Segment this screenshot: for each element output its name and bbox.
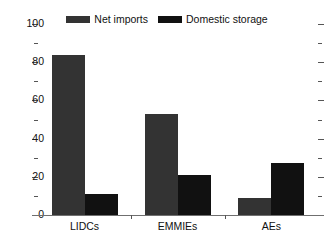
x-category-label: LIDCs [38, 220, 131, 232]
plot-area [38, 24, 318, 215]
legend-swatch-net-imports-icon [66, 16, 90, 23]
y-tick-minor-right [318, 196, 322, 197]
bar-emmies-domestic-storage [178, 175, 211, 215]
bar-lidcs-domestic-storage [85, 194, 118, 215]
bar-aes-domestic-storage [271, 163, 304, 215]
bar-chart: Net imports Domestic storage 02040608010… [0, 0, 334, 240]
x-category-label: AEs [225, 220, 318, 232]
bar-emmies-net-imports [145, 114, 178, 215]
y-tick-minor-right [318, 81, 322, 82]
y-tick-major-right [318, 24, 324, 25]
y-tick-minor-right [318, 158, 322, 159]
y-tick-major-right [318, 100, 324, 101]
bar-aes-net-imports [238, 198, 271, 215]
y-tick-major-right [318, 62, 324, 63]
legend-swatch-domestic-storage-icon [158, 16, 182, 23]
x-group-separator-tick [131, 215, 132, 219]
x-axis-line [32, 215, 324, 216]
x-category-label: EMMIEs [131, 220, 224, 232]
y-tick-major-right [318, 177, 324, 178]
y-tick-major-right [318, 139, 324, 140]
x-group-separator-tick [225, 215, 226, 219]
y-tick-minor-right [318, 120, 322, 121]
bar-lidcs-net-imports [52, 55, 85, 215]
y-tick-minor-right [318, 43, 322, 44]
